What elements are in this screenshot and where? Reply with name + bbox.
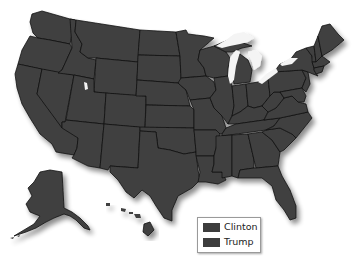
state-hawaii-big-island[interactable]: [143, 222, 154, 236]
state-montana[interactable]: [75, 20, 140, 62]
legend-item-clinton: Clinton: [203, 221, 258, 233]
contiguous-states: [15, 11, 344, 221]
legend-label-clinton: Clinton: [224, 221, 258, 233]
hawaii-kauai: [106, 203, 110, 206]
state-north-dakota[interactable]: [138, 30, 180, 56]
state-alaska[interactable]: [14, 170, 90, 236]
hawaii-oahu: [121, 208, 126, 212]
state-florida[interactable]: [238, 166, 296, 220]
alaska-group: [10, 170, 90, 239]
hawaii-maui: [134, 214, 141, 218]
legend-item-trump: Trump: [203, 236, 254, 248]
state-new-mexico[interactable]: [100, 124, 140, 170]
state-colorado[interactable]: [104, 93, 146, 128]
hawaii-group: [106, 203, 154, 236]
legend-label-trump: Trump: [224, 236, 254, 248]
legend: Clinton Trump: [197, 217, 261, 253]
state-kansas[interactable]: [145, 105, 194, 128]
us-map: [0, 0, 357, 257]
legend-swatch-trump: [203, 238, 220, 247]
hawaii-molokai: [129, 212, 133, 214]
legend-swatch-clinton: [203, 223, 220, 232]
state-maine[interactable]: [318, 24, 344, 56]
state-wyoming[interactable]: [94, 58, 138, 96]
state-south-dakota[interactable]: [137, 55, 181, 83]
